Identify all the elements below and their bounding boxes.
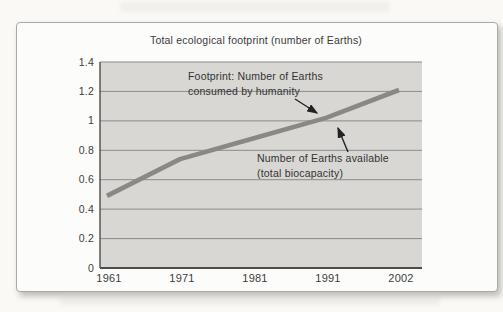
annotation-biocapacity-line2: (total biocapacity) bbox=[257, 166, 389, 181]
y-tick-label: 1.4 bbox=[58, 56, 94, 68]
y-tick-label: 1.2 bbox=[58, 85, 94, 97]
chart-title: Total ecological footprint (number of Ea… bbox=[16, 34, 496, 46]
x-tick-label: 1961 bbox=[87, 272, 131, 284]
page-bleedthrough-smudge bbox=[60, 297, 440, 306]
x-tick-label: 1971 bbox=[160, 272, 204, 284]
y-tick-label: 1 bbox=[58, 114, 94, 126]
x-tick-label: 1991 bbox=[306, 272, 350, 284]
annotation-footprint: Footprint: Number of Earths consumed by … bbox=[188, 69, 323, 99]
x-tick-label: 2002 bbox=[379, 272, 423, 284]
y-tick-label: 0.8 bbox=[58, 144, 94, 156]
y-tick-label: 0.4 bbox=[58, 203, 94, 215]
annotation-biocapacity-line1: Number of Earths available bbox=[257, 151, 389, 166]
y-tick-label: 0.6 bbox=[58, 173, 94, 185]
annotation-biocapacity: Number of Earths available (total biocap… bbox=[257, 151, 389, 181]
page-bleedthrough-smudge bbox=[120, 2, 390, 12]
x-tick-label: 1981 bbox=[233, 272, 277, 284]
annotation-footprint-line1: Footprint: Number of Earths bbox=[188, 69, 323, 84]
annotation-footprint-line2: consumed by humanity bbox=[188, 84, 323, 99]
y-tick-label: 0.2 bbox=[58, 232, 94, 244]
